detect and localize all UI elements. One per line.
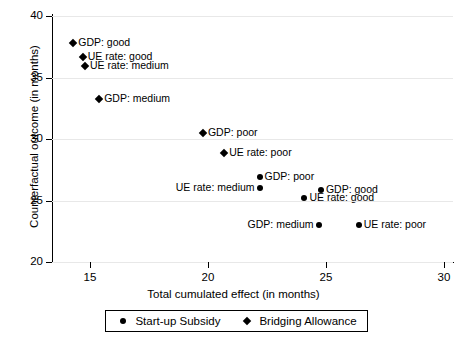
circle-marker-icon [356, 222, 362, 228]
data-point-label: UE rate: medium [176, 182, 255, 193]
gridline [52, 201, 453, 202]
diamond-marker-icon [69, 39, 77, 47]
diamond-marker-icon [78, 53, 86, 61]
y-tick-mark [46, 78, 52, 79]
y-tick-label: 35 [0, 72, 43, 84]
gridline [52, 139, 453, 140]
diamond-marker-icon [81, 61, 89, 69]
circle-marker-icon [120, 318, 126, 324]
data-point-label: UE rate: medium [90, 60, 169, 71]
circle-marker-icon [116, 318, 130, 324]
x-axis-title: Total cumulated effect (in months) [0, 288, 467, 301]
x-tick-label: 15 [70, 271, 110, 283]
diamond-marker-icon [240, 318, 254, 324]
diamond-marker-icon [220, 148, 228, 156]
gridline [52, 78, 453, 79]
y-tick-mark [46, 139, 52, 140]
legend-label: Start-up Subsidy [135, 315, 220, 327]
data-point-label: GDP: medium [248, 219, 314, 230]
y-tick-mark [46, 16, 52, 17]
circle-marker-icon [316, 222, 322, 228]
y-tick-mark [46, 201, 52, 202]
y-tick-label: 40 [0, 10, 43, 22]
data-point-label: UE rate: poor [364, 219, 426, 230]
y-tick-label: 20 [0, 256, 43, 268]
x-tick-mark [444, 262, 445, 268]
y-tick-mark [46, 262, 52, 263]
legend-entry: Bridging Allowance [240, 315, 356, 327]
y-tick-label: 25 [0, 195, 43, 207]
legend-entry: Start-up Subsidy [116, 315, 220, 327]
data-point-label: GDP: medium [104, 93, 170, 104]
circle-marker-icon [257, 185, 263, 191]
diamond-marker-icon [95, 94, 103, 102]
data-point-label: GDP: good [78, 37, 130, 48]
diamond-marker-icon [199, 129, 207, 137]
y-tick-label: 30 [0, 133, 43, 145]
x-tick-mark [208, 262, 209, 268]
x-tick-mark [326, 262, 327, 268]
gridline [52, 262, 453, 263]
x-tick-label: 20 [188, 271, 228, 283]
x-tick-mark [90, 262, 91, 268]
plot-area: GDP: poorUE rate: mediumGDP: goodUE rate… [52, 14, 453, 262]
gridline [52, 16, 453, 17]
scatter-plot-figure: GDP: poorUE rate: mediumGDP: goodUE rate… [0, 0, 467, 347]
diamond-marker-icon [243, 317, 251, 325]
legend: Start-up SubsidyBridging Allowance [105, 310, 368, 332]
circle-marker-icon [257, 174, 263, 180]
data-point-label: GDP: poor [265, 171, 315, 182]
x-tick-label: 30 [424, 271, 464, 283]
legend-label: Bridging Allowance [259, 315, 356, 327]
data-point-label: GDP: poor [208, 127, 258, 138]
x-tick-label: 25 [306, 271, 346, 283]
data-point-label: UE rate: poor [229, 147, 291, 158]
